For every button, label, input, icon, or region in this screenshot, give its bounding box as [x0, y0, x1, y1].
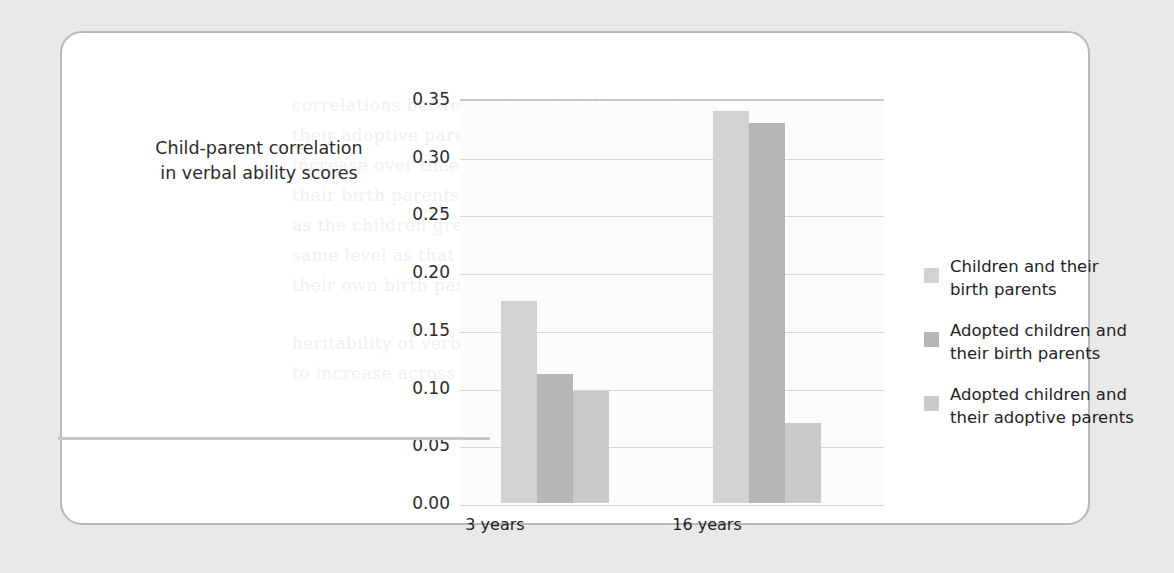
y-axis-tick-label: 0.25 [388, 204, 450, 224]
y-axis-title-line-2: in verbal ability scores [124, 161, 394, 186]
y-axis-title-line-1: Child-parent correlation [124, 136, 394, 161]
legend-item: Children and their birth parents [924, 255, 1164, 301]
y-axis-tick-label: 0.15 [388, 320, 450, 340]
chart-legend: Children and their birth parentsAdopted … [924, 255, 1164, 447]
x-axis-line [58, 437, 490, 440]
x-axis-category-label: 3 years [465, 515, 524, 534]
x-axis-category-label: 16 years [672, 515, 741, 534]
legend-item: Adopted children and their adoptive pare… [924, 383, 1164, 429]
y-axis-tick-label: 0.00 [388, 493, 450, 513]
legend-label: Children and their birth parents [950, 255, 1099, 301]
y-axis-tick-label: 0.35 [388, 89, 450, 109]
gridline [460, 159, 884, 160]
y-axis-title: Child-parent correlation in verbal abili… [124, 136, 394, 186]
plot-inner [460, 101, 884, 503]
gridline [460, 505, 884, 506]
bar [785, 423, 821, 503]
y-axis-tick-label: 0.20 [388, 262, 450, 282]
bar [573, 391, 609, 503]
y-axis-tick-label: 0.30 [388, 147, 450, 167]
legend-swatch [924, 268, 939, 283]
legend-label: Adopted children and their birth parents [950, 319, 1127, 365]
figure-panel: correlations between adopted children an… [60, 31, 1090, 525]
bar [537, 374, 573, 503]
legend-label: Adopted children and their adoptive pare… [950, 383, 1134, 429]
bar [501, 301, 537, 503]
legend-item: Adopted children and their birth parents [924, 319, 1164, 365]
gridline [460, 216, 884, 217]
legend-swatch [924, 332, 939, 347]
y-axis-tick-label: 0.10 [388, 378, 450, 398]
page-background: correlations between adopted children an… [0, 0, 1174, 573]
y-axis-tick-labels: 0.000.050.100.150.200.250.300.35 [388, 99, 450, 503]
legend-swatch [924, 396, 939, 411]
plot-area [460, 99, 884, 503]
gridline [460, 274, 884, 275]
bar [713, 111, 749, 503]
bar [749, 123, 785, 503]
